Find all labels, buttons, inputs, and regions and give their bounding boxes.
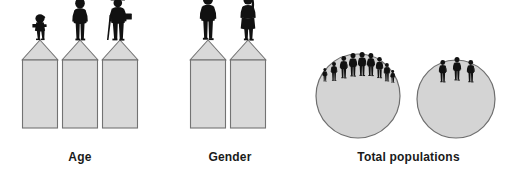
male-silhouette xyxy=(200,0,217,40)
child-silhouette xyxy=(32,14,46,40)
gender-pedestal-2 xyxy=(230,40,266,128)
elderly-silhouette xyxy=(107,0,132,41)
caption-gender: Gender xyxy=(160,150,300,165)
panel-total-populations: Total populations xyxy=(300,0,517,181)
panel-age: Age xyxy=(0,0,160,181)
age-pedestal-2 xyxy=(62,40,98,128)
total-populations-illustration xyxy=(300,0,517,148)
age-stage xyxy=(0,0,160,148)
age-illustration xyxy=(0,0,160,148)
caption-total-populations: Total populations xyxy=(300,150,517,165)
gender-pedestal-1 xyxy=(190,40,226,128)
panel-gender: Gender xyxy=(160,0,300,181)
adult-silhouette xyxy=(72,0,88,40)
total-populations-stage xyxy=(300,0,517,148)
population-comparison-figure: Age Gender xyxy=(0,0,517,181)
age-pedestal-3 xyxy=(102,40,138,128)
gender-illustration xyxy=(160,0,300,148)
female-silhouette xyxy=(240,0,255,41)
caption-age: Age xyxy=(0,150,160,165)
age-pedestal-1 xyxy=(22,40,58,128)
gender-stage xyxy=(160,0,300,148)
